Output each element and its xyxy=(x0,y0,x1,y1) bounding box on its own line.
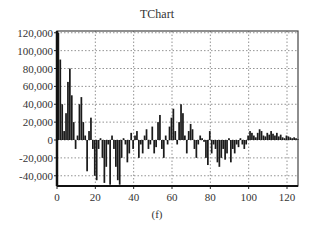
bar xyxy=(289,137,291,140)
bar xyxy=(123,138,125,140)
bar xyxy=(266,133,268,140)
bar xyxy=(230,140,232,162)
x-tick-label: 40 xyxy=(128,191,140,203)
bar xyxy=(295,138,297,140)
bar xyxy=(251,133,253,140)
bar xyxy=(226,140,228,153)
bar xyxy=(278,136,280,140)
bar xyxy=(150,140,152,144)
grid-lines xyxy=(57,31,298,186)
bar xyxy=(130,133,132,140)
bar xyxy=(96,140,98,180)
bar xyxy=(211,140,213,153)
bar xyxy=(121,140,123,158)
bar xyxy=(73,122,75,140)
bar xyxy=(75,140,77,149)
bar xyxy=(288,136,290,140)
bar xyxy=(109,140,111,185)
bar xyxy=(203,140,205,142)
bar xyxy=(236,140,238,144)
bar xyxy=(259,129,261,140)
bar xyxy=(238,140,240,147)
bar xyxy=(224,140,226,160)
bar xyxy=(240,138,242,140)
y-tick-label: 20,000 xyxy=(23,116,54,128)
bar xyxy=(217,140,219,162)
bar xyxy=(180,104,182,140)
bar xyxy=(242,140,244,144)
bar xyxy=(157,122,159,140)
bar xyxy=(125,140,127,144)
bar xyxy=(257,133,259,140)
bar xyxy=(161,140,163,149)
bar xyxy=(63,131,65,140)
x-tick-label: 20 xyxy=(90,191,102,203)
bar xyxy=(220,140,222,158)
bar xyxy=(228,138,230,140)
bar xyxy=(197,140,199,144)
bar xyxy=(134,136,136,140)
x-tick-label: 100 xyxy=(240,191,257,203)
bar xyxy=(132,140,134,149)
bar xyxy=(196,140,198,158)
bar xyxy=(173,109,175,140)
bar xyxy=(171,118,173,140)
y-tick-label: 0 xyxy=(48,134,54,146)
axes xyxy=(54,31,298,189)
bar xyxy=(186,140,188,153)
bar xyxy=(98,140,100,149)
bar xyxy=(88,131,90,140)
bar xyxy=(82,122,84,140)
bar xyxy=(190,124,192,140)
y-tick-label: -20,000 xyxy=(19,152,53,164)
bar xyxy=(107,140,109,144)
bar xyxy=(272,134,274,140)
bar xyxy=(140,140,142,144)
bar xyxy=(165,136,167,140)
bar xyxy=(213,140,215,144)
bar xyxy=(209,131,211,140)
bar xyxy=(234,140,236,153)
bar xyxy=(265,136,267,140)
bar xyxy=(77,136,79,140)
bar xyxy=(144,136,146,140)
bar xyxy=(104,140,106,183)
bar xyxy=(71,95,73,140)
bar xyxy=(245,140,247,144)
x-tick-label: 0 xyxy=(54,191,60,203)
bar xyxy=(169,127,171,140)
bar xyxy=(151,127,153,140)
y-tick-label: 60,000 xyxy=(23,80,54,92)
bar xyxy=(286,136,288,140)
bar xyxy=(119,140,121,185)
bar xyxy=(201,138,203,140)
bar xyxy=(167,140,169,144)
bar xyxy=(207,140,209,165)
bar xyxy=(153,140,155,153)
bar xyxy=(249,131,251,140)
bar-series xyxy=(58,33,299,185)
bar xyxy=(81,97,83,140)
bar xyxy=(142,140,144,153)
bar xyxy=(284,138,286,140)
x-axis-tick-labels: 020406080100120 xyxy=(54,191,296,203)
bar xyxy=(174,131,176,140)
bar-chart: 120,000100,00080,00060,00040,00020,0000-… xyxy=(0,0,314,235)
bar xyxy=(113,140,115,149)
bar xyxy=(90,118,92,140)
bar xyxy=(117,140,119,180)
bar xyxy=(268,135,270,140)
bar xyxy=(79,104,81,140)
bar xyxy=(163,140,165,158)
bar xyxy=(115,140,117,167)
bar xyxy=(194,140,196,149)
bar xyxy=(184,136,186,140)
bar xyxy=(59,60,61,140)
y-tick-label: 120,000 xyxy=(17,27,53,39)
bar xyxy=(263,136,265,140)
bar xyxy=(105,140,107,167)
bar xyxy=(178,122,180,140)
bar xyxy=(138,140,140,158)
bar xyxy=(176,140,178,144)
bar xyxy=(192,129,194,140)
